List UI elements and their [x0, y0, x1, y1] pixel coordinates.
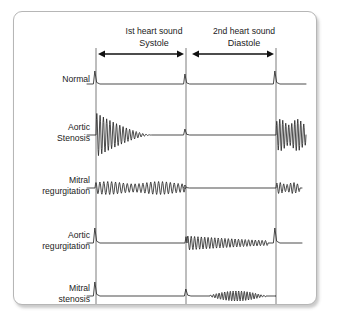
waveform-aortic-regurgitation	[87, 228, 302, 250]
phase-arrow-head-right-0	[177, 51, 184, 58]
phase-label-1: Diastole	[228, 38, 261, 48]
waveform-aortic-stenosis	[87, 113, 306, 155]
row-label-normal: Normal	[62, 74, 90, 84]
column-header-0: Ist heart sound	[126, 26, 183, 36]
waveform-normal	[87, 71, 306, 84]
row-label-mitral-regurgitation: regurgitation	[42, 186, 90, 196]
row-label-aortic-stenosis: Aortic	[68, 122, 91, 132]
heart-sounds-diagram: Ist heart sound2nd heart soundSystoleDia…	[14, 12, 316, 304]
row-label-mitral-stenosis: Mitral	[69, 283, 90, 293]
phase-arrow-head-left-0	[98, 51, 105, 58]
phase-arrow-head-right-1	[267, 51, 274, 58]
phase-label-0: Systole	[139, 38, 169, 48]
row-label-aortic-stenosis: Stenosis	[57, 133, 90, 143]
waveform-mitral-stenosis	[87, 282, 276, 301]
waveform-mitral-regurgitation	[87, 182, 302, 195]
column-header-1: 2nd heart sound	[213, 26, 275, 36]
row-label-aortic-regurgitation: Aortic	[68, 230, 91, 240]
row-label-mitral-stenosis: stenosis	[58, 294, 90, 304]
phase-arrow-head-left-1	[192, 51, 199, 58]
heart-sounds-figure-card: Ist heart sound2nd heart soundSystoleDia…	[13, 11, 317, 305]
row-label-mitral-regurgitation: Mitral	[69, 175, 90, 185]
row-label-aortic-regurgitation: regurgitation	[42, 241, 90, 251]
